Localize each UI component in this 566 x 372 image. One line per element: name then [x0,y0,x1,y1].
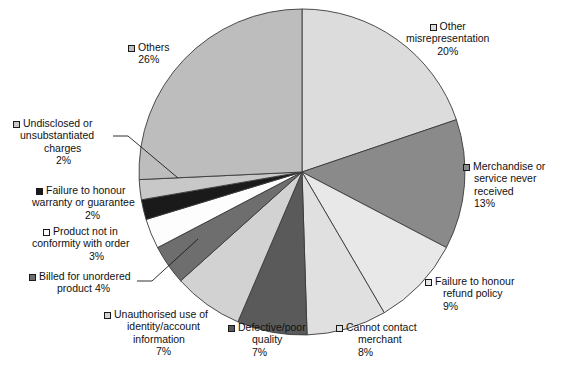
legend-swatch-unauthorised [104,312,111,319]
slice-value-cannot-contact: 8% [358,346,417,358]
slice-label-defective-text: Defective/poor [238,321,306,333]
slice-label-cannot-contact-text: Cannot contact [346,321,417,333]
slice-label-cannot-contact: Cannot contact merchant 8% [336,321,417,358]
slice-label-other-misrepresentation: Other misrepresentation 20% [406,20,489,57]
slice-label-warranty-text: Failure to honour [46,184,125,196]
slice-label-warranty-text2: warranty or guarantee [32,196,135,208]
slice-label-cannot-contact-text2: merchant [358,333,417,345]
pie-slice[interactable] [139,9,302,180]
slice-label-refund-policy-text: Failure to honour [435,275,514,287]
slice-label-undisclosed-text: Undisclosed or [23,117,92,129]
slice-label-merchandise-text: Merchandise or [473,160,545,172]
slice-value-other-misrepresentation: 20% [406,45,489,57]
slice-label-undisclosed-text3: charges [44,142,94,154]
slice-label-merchandise: Merchandise or service never received 13… [463,160,545,210]
slice-label-undisclosed-text2: unsubstantiated [20,129,94,141]
slice-label-defective-text2: quality [252,333,306,345]
slice-label-unauthorised-text2: identity/account [127,320,208,332]
legend-swatch-refund-policy [425,279,432,286]
slice-value-not-conformity: 3% [89,250,129,262]
slice-label-not-conformity: Product not in conformity with order 3% [43,225,129,262]
slice-value-undisclosed: 2% [56,154,94,166]
legend-swatch-other-misrepresentation [430,24,437,31]
slice-value-unauthorised: 7% [156,345,208,357]
slice-value-merchandise: 13% [474,197,545,209]
slice-label-not-conformity-text: Product not in [53,225,118,237]
slice-value-warranty: 2% [85,209,135,221]
slice-label-other-misrepresentation-text2: misrepresentation [406,32,489,44]
slice-label-unauthorised-text3: information [133,333,208,345]
slice-value-others: 26% [128,53,170,65]
slice-label-merchandise-text2: service never [474,172,545,184]
slice-label-refund-policy: Failure to honour refund policy 9% [425,275,514,312]
slice-label-unauthorised-text: Unauthorised use of [114,308,208,320]
pie-chart-figure: Others 26% Other misrepresentation 20% M… [0,0,566,372]
slice-label-billed-unordered-text: Billed for unordered [39,270,131,282]
legend-swatch-others [128,45,135,52]
slice-label-others-text: Others [138,41,170,53]
slice-label-unauthorised: Unauthorised use of identity/account inf… [104,308,208,358]
legend-swatch-undisclosed [13,121,20,128]
slice-value-refund-policy: 9% [443,300,514,312]
slice-label-other-misrepresentation-text: Other [440,20,466,32]
legend-swatch-merchandise [463,164,470,171]
legend-swatch-cannot-contact [336,325,343,332]
slice-label-undisclosed: Undisclosed or unsubstantiated charges 2… [13,117,94,167]
slice-label-others: Others 26% [128,41,170,66]
legend-swatch-warranty [36,188,43,195]
slice-value-defective: 7% [252,346,306,358]
pie-slices-group [139,9,465,335]
slice-label-not-conformity-text2: conformity with order [32,237,129,249]
slice-label-warranty: Failure to honour warranty or guarantee … [36,184,135,221]
legend-swatch-defective [228,325,235,332]
slice-label-defective: Defective/poor quality 7% [228,321,306,358]
legend-swatch-billed-unordered [29,274,36,281]
slice-label-billed-unordered-text2: product 4% [57,282,131,294]
slice-label-refund-policy-text2: refund policy [443,287,514,299]
slice-label-merchandise-text3: received [474,185,545,197]
legend-swatch-not-conformity [43,229,50,236]
slice-label-billed-unordered: Billed for unordered product 4% [29,270,131,295]
